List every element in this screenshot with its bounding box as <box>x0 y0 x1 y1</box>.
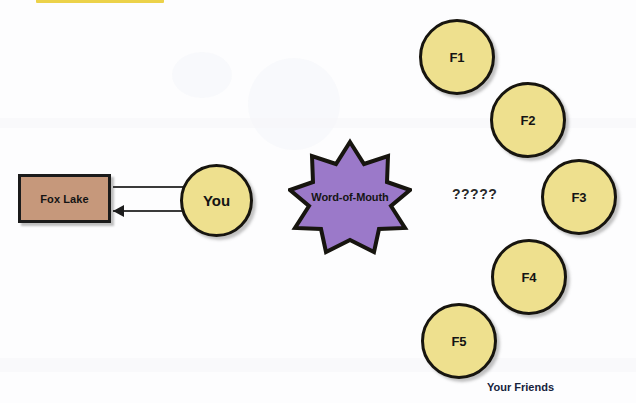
highlight-bar <box>36 0 164 3</box>
background-artifact <box>248 58 340 150</box>
friend-label-f1: F1 <box>449 50 464 65</box>
star-shape-icon <box>288 138 412 256</box>
friend-node-f1[interactable]: F1 <box>419 19 495 95</box>
fox-lake-label: Fox Lake <box>40 193 89 205</box>
friend-label-f4: F4 <box>521 270 536 285</box>
you-label: You <box>203 192 230 209</box>
friend-node-f5[interactable]: F5 <box>421 303 497 379</box>
friend-node-f3[interactable]: F3 <box>541 159 617 235</box>
your-friends-word-your: Your <box>487 381 511 393</box>
diagram-canvas: Fox Lake You Word-of-Mouth ????? F1 F2 F… <box>0 0 636 403</box>
friend-label-f5: F5 <box>451 334 466 349</box>
friend-node-f4[interactable]: F4 <box>491 239 567 315</box>
background-artifact <box>0 358 636 372</box>
friend-node-f2[interactable]: F2 <box>490 82 566 158</box>
your-friends-caption: Your Friends <box>487 381 554 393</box>
unknown-marker-label: ????? <box>452 186 497 202</box>
background-artifact <box>172 52 232 98</box>
friend-label-f3: F3 <box>571 190 586 205</box>
your-friends-word-friends: Friends <box>514 381 554 393</box>
inbound-arrow-head-icon <box>113 205 124 217</box>
fox-lake-node[interactable]: Fox Lake <box>18 174 111 223</box>
friend-label-f2: F2 <box>520 113 535 128</box>
you-node[interactable]: You <box>180 164 253 237</box>
word-of-mouth-node[interactable]: Word-of-Mouth <box>288 138 412 256</box>
